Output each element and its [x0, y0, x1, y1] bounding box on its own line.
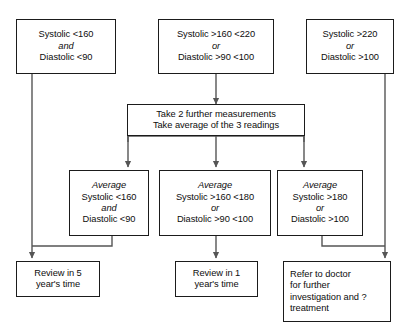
bp-low-line-1: Systolic <160 [39, 29, 94, 40]
bp-high-criteria-box[interactable]: Systolic >220 or Diastolic >100 [306, 19, 394, 74]
edge-average-high-to-refer [322, 236, 385, 246]
bp-moderate-criteria-box[interactable]: Systolic >160 <220 or Diastolic >90 <100 [158, 19, 274, 74]
take-further-line-1: Take 2 further measurements [156, 109, 276, 120]
bp-low-line-3: Diastolic <90 [40, 52, 93, 63]
refer-line-4: treatment [290, 303, 329, 314]
edge-further-fan-bus [128, 136, 304, 142]
bp-high-line-2: or [346, 41, 354, 52]
flowchart-canvas: Systolic <160 and Diastolic <90 Systolic… [0, 0, 407, 334]
review-1-line-1: Review in 1 [193, 268, 241, 279]
review-5-line-2: year's time [36, 279, 80, 290]
bp-low-line-2: and [58, 41, 73, 52]
average-high-line-2: Systolic >180 [293, 192, 348, 203]
average-moderate-line-4: Diastolic >90 <100 [177, 214, 253, 225]
bp-high-line-1: Systolic >220 [323, 29, 378, 40]
refer-line-1: Refer to doctor [290, 269, 351, 280]
edge-average-low-to-review5 [32, 236, 112, 246]
review-1-year-box[interactable]: Review in 1 year's time [175, 261, 258, 297]
average-high-line-3: or [316, 203, 324, 214]
bp-moderate-line-3: Diastolic >90 <100 [178, 52, 254, 63]
refer-to-doctor-box[interactable]: Refer to doctor for further investigatio… [283, 261, 391, 322]
average-high-box[interactable]: Average Systolic >180 or Diastolic >100 [277, 170, 363, 236]
average-low-box[interactable]: Average Systolic <160 and Diastolic <90 [69, 170, 149, 236]
average-low-line-3: and [101, 203, 116, 214]
average-high-line-4: Diastolic >100 [291, 214, 349, 225]
average-moderate-line-1: Average [198, 180, 232, 191]
bp-low-criteria-box[interactable]: Systolic <160 and Diastolic <90 [16, 19, 116, 74]
review-5-years-box[interactable]: Review in 5 year's time [16, 261, 100, 297]
bp-moderate-line-2: or [212, 41, 220, 52]
bp-moderate-line-1: Systolic >160 <220 [177, 29, 255, 40]
average-moderate-line-3: or [211, 203, 219, 214]
take-further-line-2: Take average of the 3 readings [153, 120, 279, 131]
average-low-line-1: Average [92, 180, 126, 191]
average-low-line-2: Systolic <160 [82, 192, 137, 203]
take-further-measurements-box[interactable]: Take 2 further measurements Take average… [127, 104, 305, 136]
average-high-line-1: Average [303, 180, 337, 191]
refer-line-3: investigation and ? [290, 292, 367, 303]
refer-line-2: for further [290, 280, 330, 291]
average-moderate-box[interactable]: Average Systolic >160 <180 or Diastolic … [159, 170, 271, 236]
average-low-line-4: Diastolic <90 [83, 214, 136, 225]
review-1-line-2: year's time [194, 279, 238, 290]
bp-high-line-3: Diastolic >100 [321, 52, 379, 63]
average-moderate-line-2: Systolic >160 <180 [176, 192, 254, 203]
review-5-line-1: Review in 5 [34, 268, 82, 279]
